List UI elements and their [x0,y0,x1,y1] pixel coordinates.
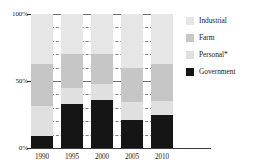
y-tick-label-100: 100% [2,11,28,18]
bar-column-1995[interactable] [61,14,83,148]
bar-segment-industrial-1995[interactable] [61,14,83,54]
legend-item-label: Industrial [199,17,227,25]
legend-swatch-icon [186,34,194,42]
legend-item-label: Personal* [199,51,228,59]
legend-swatch-icon [186,17,194,25]
bar-segment-government-2010[interactable] [151,115,173,149]
bar-segment-farm-2010[interactable] [151,64,173,102]
bar-column-2000[interactable] [91,14,113,148]
legend-item-label: Government [199,68,235,76]
legend-item-government[interactable]: Government [186,63,252,80]
bar-segment-government-1995[interactable] [61,104,83,148]
x-tick-label-1995: 1995 [61,153,83,161]
bar-column-1990[interactable] [31,14,53,148]
legend-item-label: Farm [199,34,214,42]
legend-item-personal[interactable]: Personal* [186,46,252,63]
y-tick-label-0: 0% [2,145,28,152]
bar-segment-government-2000[interactable] [91,100,113,148]
y-tick-label-50: 50% [2,78,28,85]
y-axis: 100% 50% 0% [0,0,28,168]
bar-segment-personal-2005[interactable] [121,102,143,119]
bar-segment-industrial-2000[interactable] [91,14,113,54]
bar-segment-personal-2000[interactable] [91,84,113,100]
bar-column-2005[interactable] [121,14,143,148]
legend: IndustrialFarmPersonal*Government [186,12,252,80]
bar-segment-government-1990[interactable] [31,136,53,148]
plot-area [31,14,173,148]
bar-group [31,14,173,148]
bar-segment-government-2005[interactable] [121,120,143,148]
legend-item-farm[interactable]: Farm [186,29,252,46]
bar-segment-industrial-1990[interactable] [31,14,53,64]
stacked-bar-chart: 100% 50% 0% 19901995200020052010 Industr… [0,0,253,168]
bar-segment-farm-1995[interactable] [61,54,83,88]
bar-segment-farm-2000[interactable] [91,54,113,83]
x-tick-label-2010: 2010 [151,153,173,161]
bar-segment-farm-1990[interactable] [31,64,53,107]
bar-segment-industrial-2010[interactable] [151,14,173,64]
bar-segment-industrial-2005[interactable] [121,14,143,68]
x-tick-label-2000: 2000 [91,153,113,161]
x-tick-label-1990: 1990 [31,153,53,161]
bar-column-2010[interactable] [151,14,173,148]
bar-segment-personal-1990[interactable] [31,106,53,135]
bar-segment-personal-1995[interactable] [61,88,83,104]
legend-swatch-icon [186,51,194,59]
x-tick-label-2005: 2005 [121,153,143,161]
legend-swatch-icon [186,68,194,76]
x-axis-line [31,148,211,149]
x-axis: 19901995200020052010 [31,153,173,161]
legend-item-industrial[interactable]: Industrial [186,12,252,29]
bar-segment-personal-2010[interactable] [151,101,173,114]
bar-segment-farm-2005[interactable] [121,68,143,103]
